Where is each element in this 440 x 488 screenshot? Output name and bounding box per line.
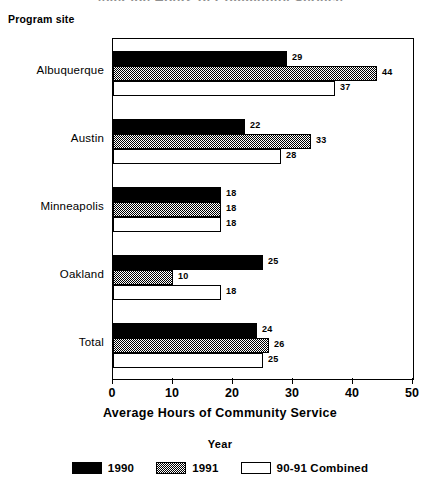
plot-area: 294437223328181818251018242625 [112,38,414,380]
bar [113,323,257,338]
bar-value-label: 18 [226,218,237,228]
x-axis-tick [112,378,113,384]
bar [113,202,221,217]
bar-value-label: 33 [316,135,327,145]
x-axis-tick-label: 30 [285,386,299,400]
black-solid-swatch [72,462,102,474]
bar-group: 294437 [113,51,413,96]
bar-group: 181818 [113,187,413,232]
bar [113,134,311,149]
bar-row: 18 [113,202,413,217]
x-axis-tick [412,378,413,384]
bar [113,217,221,232]
category-label: Albuquerque [37,64,104,76]
x-axis-tick-label: 10 [165,386,179,400]
category-label: Minneapolis [40,200,104,212]
bar-value-label: 28 [286,150,297,160]
bar-row: 10 [113,270,413,285]
bar-value-label: 44 [382,67,393,77]
x-axis-tick [232,378,233,384]
bar [113,285,221,300]
x-axis-tick-label: 20 [225,386,239,400]
x-axis-title: Average Hours of Community Service [0,406,440,420]
plot-inner: 294437223328181818251018242625 [113,39,413,379]
bar-row: 24 [113,323,413,338]
x-axis-tick-label: 0 [109,386,116,400]
bar-value-label: 22 [250,120,261,130]
bar-row: 28 [113,149,413,164]
bar-row: 22 [113,119,413,134]
x-axis-tick [292,378,293,384]
bar-value-label: 37 [340,82,351,92]
bar-value-label: 25 [268,256,279,266]
bar-row: 29 [113,51,413,66]
x-axis-tick [352,378,353,384]
bar [113,81,335,96]
legend-item-label: 1991 [192,462,218,474]
bar-value-label: 24 [262,324,273,334]
bar-row: 33 [113,134,413,149]
chart-title-clipped: Average Hours of Community Service [0,0,440,1]
category-label: Oakland [60,268,104,280]
bar-value-label: 29 [292,52,303,62]
bar-row: 18 [113,217,413,232]
category-label: Total [79,336,104,348]
bar [113,149,281,164]
x-axis-tick-label: 50 [405,386,419,400]
x-axis-tick [172,378,173,384]
legend-item-label: 90-91 Combined [277,462,369,474]
y-axis-caption: Program site [8,13,75,25]
bar-row: 18 [113,285,413,300]
bar-value-label: 18 [226,203,237,213]
bar-row: 44 [113,66,413,81]
bar-value-label: 10 [178,271,189,281]
bar-row: 37 [113,81,413,96]
bar-group: 251018 [113,255,413,300]
bar [113,119,245,134]
legend-item[interactable]: 1990 [72,462,134,474]
bar-value-label: 18 [226,286,237,296]
bar-value-label: 18 [226,188,237,198]
legend-item-label: 1990 [108,462,134,474]
bar [113,187,221,202]
bar [113,353,263,368]
legend: 1990199190-91 Combined [0,462,440,474]
bar-row: 18 [113,187,413,202]
bar-value-label: 26 [274,339,285,349]
bar [113,270,173,285]
bar [113,338,269,353]
bar-row: 25 [113,255,413,270]
legend-title: Year [0,438,440,450]
x-axis-tick-label: 40 [345,386,359,400]
bar-chart: Average Hours of Community Service Progr… [0,0,440,488]
bar-group: 223328 [113,119,413,164]
bar-row: 25 [113,353,413,368]
bar [113,51,287,66]
bar [113,66,377,81]
category-label: Austin [71,132,104,144]
bar-group: 242625 [113,323,413,368]
white-outline-swatch [241,462,271,474]
bar [113,255,263,270]
hatched-gray-swatch [156,462,186,474]
legend-item[interactable]: 1991 [156,462,218,474]
bar-value-label: 25 [268,354,279,364]
bar-row: 26 [113,338,413,353]
legend-item[interactable]: 90-91 Combined [241,462,369,474]
